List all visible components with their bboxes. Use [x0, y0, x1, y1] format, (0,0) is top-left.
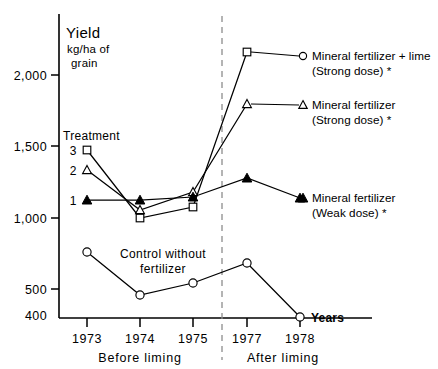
series-3-point-1975 — [189, 203, 197, 211]
x-tick-label-1978: 1978 — [285, 332, 315, 346]
x-tick-label-1977: 1977 — [232, 332, 262, 346]
series-3-point-1973 — [83, 146, 91, 154]
period-label-before-liming: Before liming — [98, 351, 181, 365]
treatment-number-2: 2 — [70, 164, 77, 178]
yield-line-chart: 2,000 1,500 1,000 500 400 1973 1974 1975… — [0, 0, 438, 369]
x-tick-labels: 1973 1974 1975 1977 1978 — [72, 332, 315, 346]
treatment-number-1: 1 — [70, 194, 77, 208]
y-tick-labels: 2,000 1,500 1,000 500 400 — [14, 69, 47, 323]
x-tick-label-1975: 1975 — [178, 332, 208, 346]
series-2-point-1973 — [83, 165, 92, 173]
x-tick-label-1973: 1973 — [72, 332, 102, 346]
x-axis-title-years: Years — [311, 311, 344, 325]
y-tick-label-1500: 1,500 — [14, 140, 47, 154]
y-tick-label-400: 400 — [25, 309, 47, 323]
legend-label-series-1-line2: (Weak dose) * — [312, 206, 387, 219]
chart-canvas: 2,000 1,500 1,000 500 400 1973 1974 1975… — [0, 0, 438, 369]
y-axis-title-line3: grain — [71, 57, 98, 69]
legend-leader-series-3 — [251, 52, 299, 56]
control-note-line1: Control without — [120, 247, 206, 261]
y-axis-title-line2: kg/ha of — [67, 43, 110, 55]
period-label-after-liming: After liming — [247, 351, 319, 365]
legend-marker-series-2 — [299, 101, 307, 109]
y-axis-title: Yield kg/ha of grain — [66, 24, 110, 69]
legend-label-series-3-line1: Mineral fertilizer + lime — [312, 49, 430, 62]
treatment-number-3: 3 — [70, 144, 77, 158]
series-mineral-fertilizer-strong — [83, 99, 252, 213]
control-annotation: Control without fertilizer — [120, 247, 206, 276]
series-2-point-1977 — [243, 99, 252, 107]
y-tick-label-1000: 1,000 — [14, 212, 47, 226]
legend-label-series-2-line2: (Strong dose) * — [312, 113, 392, 126]
treatment-heading: Treatment — [63, 129, 120, 143]
legend-label-series-2-line1: Mineral fertilizer — [312, 98, 395, 111]
legend-label-series-1-line1: Mineral fertilizer — [312, 191, 395, 204]
legend-group: Mineral fertilizer + lime (Strong dose) … — [251, 49, 430, 219]
series-control-point-1975 — [189, 279, 197, 287]
legend-leader-series-2 — [251, 104, 299, 105]
series-control-point-1973 — [83, 248, 91, 256]
series-3-point-1974 — [136, 214, 144, 222]
series-control-point-1974 — [136, 291, 144, 299]
series-control-point-1978 — [296, 313, 304, 321]
y-tick-label-500: 500 — [25, 283, 47, 297]
series-1-point-1977 — [242, 173, 252, 182]
y-axis-title-line1: Yield — [66, 24, 100, 41]
legend-marker-series-3 — [299, 52, 306, 59]
control-note-line2: fertilizer — [140, 262, 186, 276]
series-control-point-1977 — [243, 259, 251, 267]
y-tick-label-2000: 2,000 — [14, 69, 47, 83]
x-tick-label-1974: 1974 — [125, 332, 155, 346]
legend-label-series-3-line2: (Strong dose) * — [312, 64, 392, 77]
treatment-key: Treatment 3 2 1 — [63, 129, 120, 208]
series-3-point-1977 — [243, 48, 251, 56]
